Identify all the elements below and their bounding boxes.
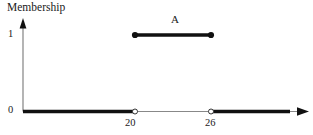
marker-closed-at-20 <box>132 32 138 38</box>
x-axis-arrowhead <box>297 107 309 116</box>
marker-open-at-20 <box>133 109 138 114</box>
y-axis-arrowhead <box>20 18 27 29</box>
plot-canvas <box>0 0 313 135</box>
y-axis-tick-label-0: 0 <box>8 105 13 116</box>
marker-open-at-26 <box>209 109 214 114</box>
x-axis-tick-label-20: 20 <box>125 118 136 129</box>
membership-function-chart: Membership 1 0 20 26 A <box>0 0 313 135</box>
marker-closed-at-26 <box>208 32 214 38</box>
series-label-a: A <box>171 14 179 25</box>
y-axis-tick-label-1: 1 <box>8 29 13 40</box>
x-axis-tick-label-26: 26 <box>205 118 216 129</box>
y-axis-title: Membership <box>7 2 65 14</box>
